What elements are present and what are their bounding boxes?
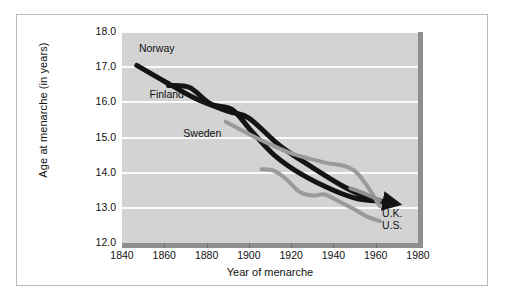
chart-root: 12.013.014.015.016.017.018.0 18401860188…: [0, 0, 508, 304]
series-label-sweden: Sweden: [183, 127, 221, 139]
series-label-uk: U.K.: [382, 207, 402, 219]
y-axis-title: Age at menarche (in years): [37, 15, 49, 205]
series-label-us: U.S.: [382, 219, 402, 231]
x-axis-title: Year of menarche: [122, 266, 418, 278]
series-label-finland: Finland: [149, 88, 183, 100]
data-lines: [0, 0, 508, 304]
series-label-norway: Norway: [139, 42, 175, 54]
